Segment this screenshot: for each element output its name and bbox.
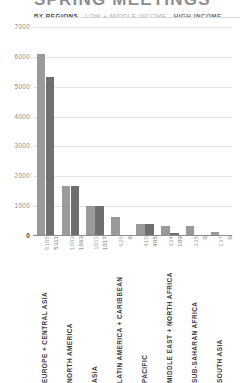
bar-group: [86, 27, 104, 236]
bar-value-label: 9: [127, 236, 133, 240]
bar-value-label: 405: [152, 236, 158, 247]
category-label: EUROPE + CENTRAL ASIA: [42, 292, 48, 383]
bar: [86, 206, 95, 236]
category-label: MIDDLE EAST + NORTH AFRICA: [167, 272, 173, 383]
bar-value-label: 109: [177, 236, 183, 247]
y-axis-tick-label: 2000: [0, 173, 30, 179]
bar-group: [37, 27, 55, 236]
y-axis: 70006000500040003000200010000: [0, 0, 30, 240]
bar-value-label: 1663: [69, 236, 75, 250]
legend-item-high-income: HIGH INCOME: [174, 11, 222, 21]
bar-value-label: 410: [143, 236, 149, 247]
category-label: SOUTH ASIA: [217, 339, 223, 383]
bar-group: [111, 27, 129, 236]
y-axis-tick-label: 3000: [0, 143, 30, 149]
bar-value-label: 0: [202, 236, 208, 240]
bar-value-label: 334: [168, 236, 174, 247]
bar-group: [211, 27, 229, 236]
category-label: NORTH AMERICA: [67, 323, 73, 383]
bar-group: [136, 27, 154, 236]
bar-value-label: 626: [118, 236, 124, 247]
chart-header: SPRING MEETINGS BY REGIONSLOW + MIDDLE I…: [0, 0, 240, 18]
bar: [95, 206, 104, 236]
bar-value-label: 1011: [93, 236, 99, 250]
bar: [37, 54, 46, 236]
bar-value-label: 1663: [78, 236, 84, 250]
chart-legend: BY REGIONSLOW + MIDDLE INCOMEHIGH INCOME: [34, 6, 240, 16]
bar-value-label: 137: [218, 236, 224, 247]
value-labels-container: 6105531116631663101110176269410405334109…: [33, 236, 232, 266]
bar-group: [186, 27, 204, 236]
bar-value-label: 6105: [44, 236, 50, 250]
bar-value-label: 336: [193, 236, 199, 247]
legend-item-low-middle-income: LOW + MIDDLE INCOME: [85, 11, 166, 21]
category-labels-container: EUROPE + CENTRAL ASIANORTH AMERICAASIALA…: [33, 270, 232, 383]
bar-value-label: 1017: [102, 236, 108, 250]
bar-value-label: 0: [227, 236, 233, 240]
category-label: LATIN AMERICA + CARIBBEAN: [117, 277, 123, 383]
y-axis-tick-label: 1000: [0, 203, 30, 209]
bar: [46, 77, 55, 236]
y-axis-tick-label: 6000: [0, 54, 30, 60]
bar: [62, 186, 71, 236]
y-axis-tick-label: 7000: [0, 24, 30, 30]
header-divider: [34, 17, 240, 18]
bar: [71, 186, 80, 236]
bar-value-label: 5311: [53, 236, 59, 250]
bar-group: [161, 27, 179, 236]
legend-by-regions: BY REGIONS: [34, 11, 78, 21]
y-axis-tick-label: 5000: [0, 84, 30, 90]
category-label: PACIFIC: [142, 355, 148, 383]
bar: [111, 217, 120, 236]
category-label: ASIA: [92, 366, 98, 383]
bars-container: [33, 27, 232, 236]
y-axis-tick-label: 0: [0, 233, 30, 239]
y-axis-tick-label: 4000: [0, 114, 30, 120]
category-label: SUB-SAHARAN AFRICA: [192, 302, 198, 383]
bar-group: [62, 27, 80, 236]
